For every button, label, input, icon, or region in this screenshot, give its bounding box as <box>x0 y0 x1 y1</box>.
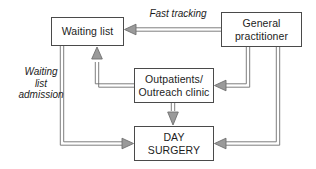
flow-diagram: Waiting list General practitioner Outpat… <box>0 0 316 169</box>
edge-label-waiting-list-admission: Waiting list admission <box>8 66 74 101</box>
edge-outpatients-to-day-surgery <box>168 103 179 125</box>
node-waiting-list-label: Waiting list <box>62 25 114 38</box>
node-waiting-list: Waiting list <box>51 17 124 46</box>
edge-label-fast-tracking: Fast tracking <box>134 8 222 20</box>
node-outpatients-outreach-clinic-label: Outpatients/ Outreach clinic <box>139 73 210 98</box>
node-day-surgery: DAY SURGERY <box>134 126 214 161</box>
edge-gp-to-outpatients <box>215 47 250 91</box>
node-general-practitioner: General practitioner <box>221 12 302 47</box>
edge-gp-to-waiting-list <box>125 24 222 35</box>
node-general-practitioner-label: General practitioner <box>235 17 288 42</box>
edge-gp-to-day-surgery <box>215 47 280 149</box>
node-outpatients-outreach-clinic: Outpatients/ Outreach clinic <box>134 68 214 103</box>
node-day-surgery-label: DAY SURGERY <box>148 131 200 156</box>
edge-outpatients-to-waiting-list <box>92 47 134 87</box>
